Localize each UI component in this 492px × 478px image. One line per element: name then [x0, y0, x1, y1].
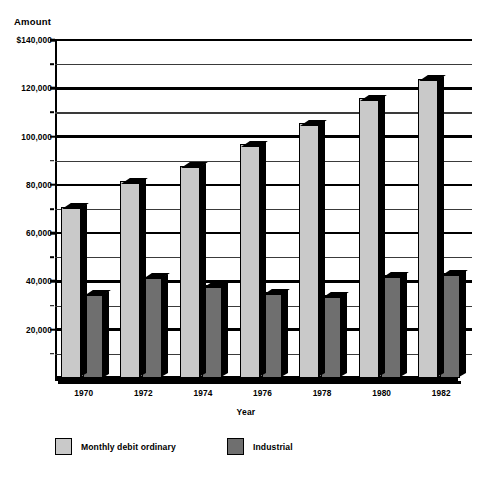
x-tick-label-1976: 1976	[253, 388, 272, 398]
bar-side-face	[102, 290, 109, 377]
x-tick-label-1974: 1974	[193, 388, 212, 398]
bar-1978-series-1	[299, 123, 319, 378]
bar-side-face	[221, 282, 228, 377]
bar-side-face	[459, 270, 466, 377]
y-tick-mark-30000	[50, 305, 54, 307]
plot-area	[55, 40, 472, 378]
chart-legend: Monthly debit ordinaryIndustrial	[55, 438, 455, 462]
legend-swatch-1	[55, 438, 72, 455]
legend-swatch-2	[227, 438, 244, 455]
bar-side-face	[139, 178, 146, 377]
gridline-minor-130000	[55, 64, 472, 65]
y-tick-mark-100000	[50, 135, 55, 138]
y-tick-label-120000: 120,000	[21, 83, 52, 93]
bar-side-face	[80, 204, 87, 377]
x-tick-label-1980: 1980	[372, 388, 391, 398]
y-tick-label-80000: 80,000	[26, 180, 52, 190]
gridline-major-100000	[55, 135, 472, 138]
legend-label-1: Monthly debit ordinary	[81, 442, 176, 452]
y-tick-label-40000: 40,000	[26, 276, 52, 286]
x-axis-depth-shadow	[58, 381, 461, 384]
y-tick-label-60000: 60,000	[26, 228, 52, 238]
bar-1982-series-1	[418, 79, 438, 378]
x-axis-title: Year	[0, 407, 492, 417]
y-tick-label-20000: 20,000	[26, 325, 52, 335]
x-tick-label-1982: 1982	[432, 388, 451, 398]
y-tick-mark-130000	[50, 63, 54, 65]
bar-chart: Amount 20,00040,00060,00080,000100,00012…	[0, 0, 492, 478]
bar-1976-series-1	[240, 144, 260, 378]
bar-1980-series-1	[359, 98, 379, 378]
bar-side-face	[340, 292, 347, 377]
bar-side-face	[378, 95, 385, 377]
y-tick-mark-40000	[50, 280, 55, 283]
bar-side-face	[199, 163, 206, 377]
bar-side-face	[437, 76, 444, 377]
gridline-major-120000	[55, 87, 472, 90]
gridline-minor-110000	[55, 112, 472, 113]
y-tick-mark-60000	[50, 232, 55, 235]
y-tick-mark-110000	[50, 112, 54, 114]
x-tick-label-1978: 1978	[313, 388, 332, 398]
legend-item-2[interactable]: Industrial	[227, 438, 293, 455]
y-tick-mark-50000	[50, 256, 54, 258]
gridline-major-140000	[55, 39, 472, 42]
bar-1970-series-1	[61, 207, 81, 378]
bar-1972-series-1	[120, 181, 140, 378]
bar-side-face	[259, 141, 266, 377]
y-axis-title: Amount	[14, 16, 51, 27]
y-tick-label-140000: $140,000	[17, 35, 52, 45]
y-axis-tick-labels: 20,00040,00060,00080,000100,000120,000$1…	[0, 40, 52, 378]
y-tick-mark-70000	[50, 208, 54, 210]
y-tick-label-100000: 100,000	[21, 132, 52, 142]
bar-side-face	[400, 272, 407, 377]
y-tick-mark-10000	[50, 353, 54, 355]
x-axis-tick-labels: 1970197219741976197819801982	[55, 388, 472, 404]
legend-label-2: Industrial	[253, 442, 293, 452]
bar-side-face	[161, 274, 168, 377]
y-tick-mark-90000	[50, 160, 54, 162]
y-tick-mark-120000	[50, 87, 55, 90]
bar-side-face	[318, 120, 325, 377]
x-tick-label-1972: 1972	[134, 388, 153, 398]
bar-side-face	[281, 289, 288, 377]
x-tick-label-1970: 1970	[74, 388, 93, 398]
legend-item-1[interactable]: Monthly debit ordinary	[55, 438, 176, 455]
y-tick-mark-140000	[50, 39, 55, 42]
bar-1974-series-1	[180, 166, 200, 378]
y-tick-mark-80000	[50, 184, 55, 187]
y-tick-mark-20000	[50, 328, 55, 331]
